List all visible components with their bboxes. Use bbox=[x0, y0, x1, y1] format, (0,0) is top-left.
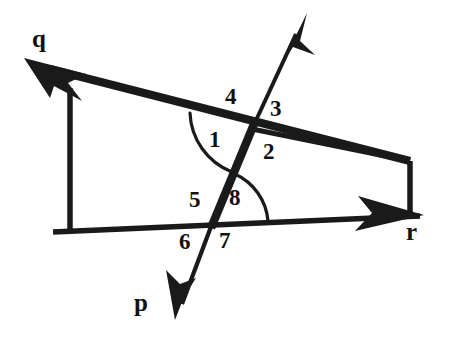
angle-label-3: 3 bbox=[270, 97, 282, 120]
ray-label-r: r bbox=[406, 219, 417, 244]
angle-label-6: 6 bbox=[179, 230, 191, 253]
angle-label-4: 4 bbox=[225, 85, 237, 108]
ray-label-q: q bbox=[32, 26, 46, 51]
line-q-right-segment bbox=[252, 129, 410, 161]
ray-label-p: p bbox=[134, 290, 148, 315]
geometry-figure: q r p 1 2 3 4 5 6 7 8 bbox=[0, 0, 450, 338]
angle-label-2: 2 bbox=[263, 140, 275, 163]
angle-label-8: 8 bbox=[229, 186, 241, 209]
angle-label-1: 1 bbox=[209, 128, 221, 151]
angle-label-7: 7 bbox=[219, 229, 231, 252]
line-q bbox=[50, 69, 410, 161]
geometry-canvas bbox=[0, 0, 450, 338]
angle-label-5: 5 bbox=[189, 188, 201, 211]
transversal-up-arrowhead bbox=[283, 13, 315, 62]
